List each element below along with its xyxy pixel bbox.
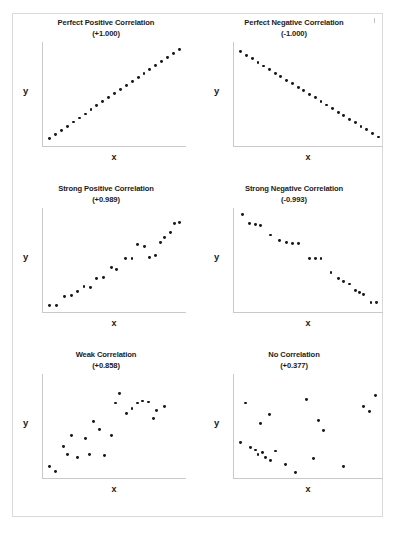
data-point bbox=[92, 420, 95, 423]
data-point bbox=[114, 402, 117, 405]
plot-axes bbox=[233, 374, 383, 479]
data-point bbox=[131, 407, 134, 410]
x-axis-label: x bbox=[42, 152, 186, 162]
panel-title: No Correlation bbox=[204, 350, 384, 361]
data-point bbox=[312, 457, 315, 460]
y-axis-label: y bbox=[23, 252, 28, 262]
data-point bbox=[368, 410, 371, 413]
data-point bbox=[245, 54, 248, 57]
data-point bbox=[155, 409, 158, 412]
data-point bbox=[362, 293, 365, 296]
data-point bbox=[98, 428, 101, 431]
data-point bbox=[322, 429, 325, 432]
scatter-plot-area bbox=[43, 42, 186, 146]
data-point bbox=[131, 80, 134, 83]
data-point bbox=[63, 295, 66, 298]
data-point bbox=[163, 405, 166, 408]
data-point bbox=[70, 294, 73, 297]
data-point bbox=[124, 257, 127, 260]
data-point bbox=[291, 242, 294, 245]
data-point bbox=[163, 236, 166, 239]
data-point bbox=[377, 136, 380, 139]
data-point bbox=[354, 121, 357, 124]
data-point bbox=[375, 301, 378, 304]
data-point bbox=[136, 243, 139, 246]
plot-axes bbox=[42, 42, 186, 147]
data-point bbox=[325, 104, 328, 107]
x-axis-label: x bbox=[233, 152, 383, 162]
data-point bbox=[274, 72, 277, 75]
data-point bbox=[305, 398, 308, 401]
data-point bbox=[342, 465, 345, 468]
scatter-plot-area bbox=[234, 374, 383, 478]
data-point bbox=[159, 241, 162, 244]
data-point bbox=[102, 276, 105, 279]
data-point bbox=[302, 89, 305, 92]
data-point bbox=[279, 75, 282, 78]
data-point bbox=[251, 57, 254, 60]
panel-no-correlation: No Correlation (+0.377) y x bbox=[204, 350, 384, 518]
data-point bbox=[269, 234, 272, 237]
data-point bbox=[66, 453, 69, 456]
data-point bbox=[148, 68, 151, 71]
data-point bbox=[257, 453, 260, 456]
data-point bbox=[60, 129, 63, 132]
data-point bbox=[354, 289, 357, 292]
panel-subtitle: (+0.858) bbox=[13, 361, 199, 372]
data-point bbox=[248, 222, 251, 225]
data-point bbox=[78, 117, 81, 120]
panel-subtitle: (+0.989) bbox=[13, 195, 199, 206]
data-point bbox=[169, 231, 172, 234]
data-point bbox=[160, 60, 163, 63]
data-point bbox=[137, 76, 140, 79]
data-point bbox=[360, 125, 363, 128]
data-point bbox=[342, 114, 345, 117]
data-point bbox=[239, 441, 242, 444]
data-point bbox=[254, 449, 257, 452]
data-point bbox=[125, 412, 128, 415]
data-point bbox=[136, 402, 139, 405]
data-point bbox=[172, 52, 175, 55]
panel-perfect-positive: Perfect Positive Correlation (+1.000) y … bbox=[13, 18, 199, 186]
y-axis-label: y bbox=[214, 86, 219, 96]
data-point bbox=[110, 266, 113, 269]
data-point bbox=[249, 446, 252, 449]
data-point bbox=[89, 286, 92, 289]
y-axis-label: y bbox=[214, 418, 219, 428]
panel-subtitle: (+1.000) bbox=[13, 29, 199, 40]
data-point bbox=[173, 222, 176, 225]
data-point bbox=[239, 50, 242, 53]
data-point bbox=[147, 401, 150, 404]
panel-perfect-negative: Perfect Negative Correlation (-1.000) y … bbox=[204, 18, 384, 186]
scatter-plot-area bbox=[234, 208, 383, 312]
data-point bbox=[101, 100, 104, 103]
data-point bbox=[268, 413, 271, 416]
data-point bbox=[54, 133, 57, 136]
data-point bbox=[131, 257, 134, 260]
data-point bbox=[262, 65, 265, 68]
data-point bbox=[308, 93, 311, 96]
data-point bbox=[337, 111, 340, 114]
data-point bbox=[257, 61, 260, 64]
panel-title: Strong Positive Correlation bbox=[13, 184, 199, 195]
data-point bbox=[342, 280, 345, 283]
data-point bbox=[259, 224, 262, 227]
scatter-plot-area bbox=[43, 208, 186, 312]
panel-strong-negative: Strong Negative Correlation (-0.993) y x bbox=[204, 184, 384, 352]
data-point bbox=[88, 453, 91, 456]
data-point bbox=[48, 465, 51, 468]
data-point bbox=[297, 242, 300, 245]
data-point bbox=[278, 239, 281, 242]
panel-subtitle: (+0.377) bbox=[204, 361, 384, 372]
data-point bbox=[285, 79, 288, 82]
plot-axes bbox=[233, 42, 383, 147]
data-point bbox=[269, 459, 272, 462]
panel-title: Strong Negative Correlation bbox=[204, 184, 384, 195]
x-axis-label: x bbox=[233, 484, 383, 494]
data-point bbox=[314, 257, 317, 260]
data-point bbox=[125, 84, 128, 87]
x-axis-label: x bbox=[233, 318, 383, 328]
data-point bbox=[254, 223, 257, 226]
data-point bbox=[317, 419, 320, 422]
data-point bbox=[291, 82, 294, 85]
